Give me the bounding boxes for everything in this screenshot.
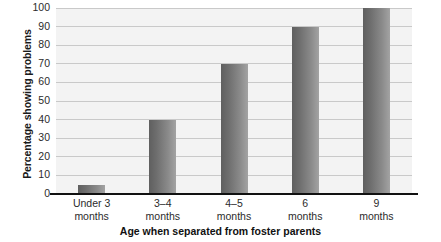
bars-layer xyxy=(56,8,412,194)
x-tick-label: Under 3months xyxy=(52,197,132,222)
y-tick-label: 20 xyxy=(22,151,50,162)
x-tick-label-line: months xyxy=(194,210,274,223)
x-tick-label-line: months xyxy=(336,210,416,223)
x-axis-line xyxy=(50,193,418,195)
y-tick-label: 80 xyxy=(22,39,50,50)
plot-panel xyxy=(56,8,412,194)
y-tick-label: 10 xyxy=(22,169,50,180)
x-tick-label-line: months xyxy=(265,210,345,223)
x-axis-title: Age when separated from foster parents xyxy=(0,225,441,237)
y-tick-label: 0 xyxy=(22,188,50,199)
x-tick-label-line: months xyxy=(123,210,203,223)
y-tick-label: 50 xyxy=(22,95,50,106)
x-tick-label-line: months xyxy=(52,210,132,223)
y-tick-label: 90 xyxy=(22,21,50,32)
bar xyxy=(363,8,390,194)
x-tick-label: 4–5months xyxy=(194,197,274,222)
bar xyxy=(292,27,319,194)
x-tick-label: 3–4months xyxy=(123,197,203,222)
bar-chart-figure: Percentage showing problems 010203040506… xyxy=(0,0,441,242)
x-tick-label-line: 3–4 xyxy=(123,197,203,210)
x-tick-label-line: 4–5 xyxy=(194,197,274,210)
y-tick-label: 60 xyxy=(22,76,50,87)
y-tick-label: 40 xyxy=(22,114,50,125)
x-tick-label-line: Under 3 xyxy=(52,197,132,210)
bar xyxy=(149,120,176,194)
x-tick-label-line: 9 xyxy=(336,197,416,210)
y-tick-label: 100 xyxy=(22,2,50,13)
y-tick-label: 30 xyxy=(22,132,50,143)
y-tick-label: 70 xyxy=(22,58,50,69)
x-tick-label: 9months xyxy=(336,197,416,222)
x-tick-label-line: 6 xyxy=(265,197,345,210)
bar xyxy=(221,64,248,194)
x-tick-label: 6months xyxy=(265,197,345,222)
